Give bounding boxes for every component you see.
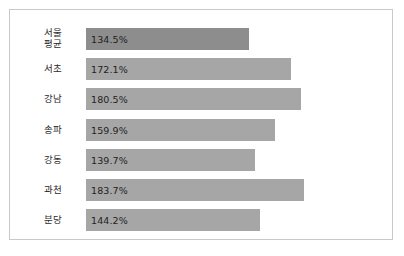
bar-value-label: 139.7% (91, 149, 128, 171)
category-label: 강동 (24, 149, 82, 171)
category-label-line: 서초 (44, 64, 62, 75)
category-label-line: 분당 (44, 215, 62, 226)
chart-frame: 서울평균134.5%서초172.1%강남180.5%송파159.9%강동139.… (9, 9, 393, 240)
bar-value-label: 172.1% (91, 58, 128, 80)
bar: 144.2% (86, 209, 260, 231)
bar: 159.9% (86, 119, 275, 141)
category-label-line: 송파 (44, 125, 62, 136)
bar-chart-row: 서울평균134.5% (10, 28, 392, 50)
bar-value-label: 183.7% (91, 179, 128, 201)
bar-value-label: 180.5% (91, 88, 128, 110)
bar-chart-row: 분당144.2% (10, 209, 392, 231)
bar-chart-row: 과천183.7% (10, 179, 392, 201)
bar-chart-row: 송파159.9% (10, 119, 392, 141)
bar: 183.7% (86, 179, 304, 201)
bar-value-label: 144.2% (91, 209, 128, 231)
bar-value-label: 159.9% (91, 119, 128, 141)
bar: 180.5% (86, 88, 301, 110)
category-label-line: 과천 (44, 185, 62, 196)
category-label: 송파 (24, 119, 82, 141)
category-label: 서초 (24, 58, 82, 80)
category-label-line: 강동 (44, 155, 62, 166)
bar-chart-row: 강남180.5% (10, 88, 392, 110)
bar-chart-rows: 서울평균134.5%서초172.1%강남180.5%송파159.9%강동139.… (10, 10, 392, 239)
bar-chart-row: 강동139.7% (10, 149, 392, 171)
category-label-line: 강남 (44, 94, 62, 105)
bar: 172.1% (86, 58, 291, 80)
category-label-line: 평균 (44, 39, 62, 50)
bar: 139.7% (86, 149, 255, 171)
bar-value-label: 134.5% (91, 28, 128, 50)
category-label: 분당 (24, 209, 82, 231)
category-label: 과천 (24, 179, 82, 201)
bar-chart-row: 서초172.1% (10, 58, 392, 80)
category-label: 서울평균 (24, 28, 82, 50)
category-label: 강남 (24, 88, 82, 110)
bar: 134.5% (86, 28, 249, 50)
